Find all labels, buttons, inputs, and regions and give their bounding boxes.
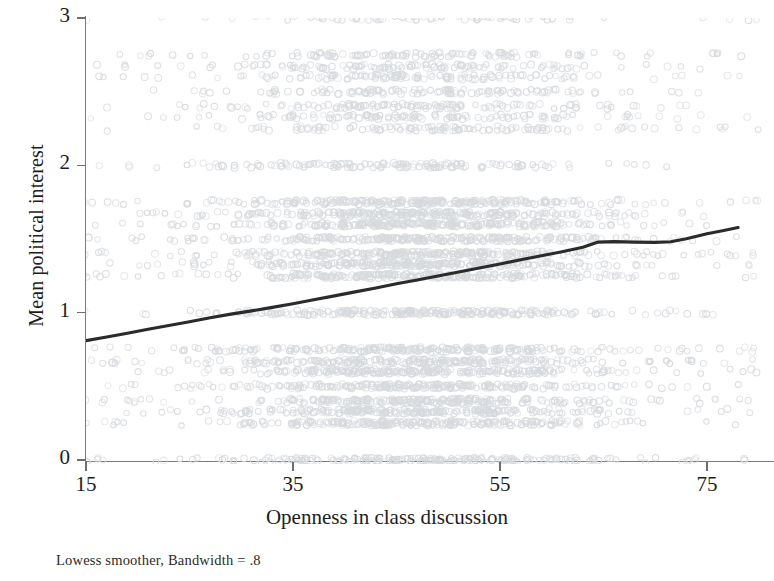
scatter-point — [605, 411, 611, 417]
scatter-point — [137, 263, 142, 268]
scatter-point — [203, 406, 210, 413]
scatter-point — [253, 18, 259, 19]
scatter-point — [751, 273, 757, 279]
scatter-point — [697, 66, 703, 72]
scatter-point — [211, 103, 217, 109]
scatter-point — [740, 368, 746, 374]
scatter-point — [202, 52, 208, 58]
scatter-point — [744, 114, 751, 121]
scatter-point — [104, 128, 110, 134]
scatter-point — [158, 273, 164, 279]
plot-area — [86, 18, 774, 460]
scatter-point — [225, 198, 232, 205]
scatter-point — [631, 162, 637, 168]
scatter-point — [154, 165, 160, 171]
scatter-point — [146, 396, 152, 402]
scatter-point — [203, 271, 210, 278]
scatter-point — [677, 102, 683, 108]
scatter-point — [476, 458, 483, 464]
scatter-point — [610, 252, 617, 259]
scatter-point — [92, 345, 98, 351]
scatter-point — [721, 360, 727, 366]
scatter-point — [477, 65, 482, 70]
scatter-point — [684, 310, 691, 317]
scatter-point — [643, 62, 649, 68]
scatter-point — [665, 346, 671, 352]
scatter-point — [252, 381, 259, 388]
scatter-point — [228, 259, 234, 265]
scatter-point — [742, 344, 748, 350]
scatter-point — [700, 18, 706, 21]
scatter-point — [696, 400, 703, 407]
scatter-point — [195, 270, 202, 277]
scatter-point — [608, 202, 614, 208]
scatter-point — [169, 52, 175, 58]
scatter-point — [241, 455, 248, 462]
scatter-point — [427, 87, 433, 93]
scatter-point — [753, 369, 760, 376]
scatter-point — [235, 63, 242, 70]
scatter-point — [139, 360, 144, 365]
scatter-point — [258, 89, 264, 95]
scatter-point — [727, 199, 733, 205]
plot-canvas — [86, 18, 774, 464]
y-tick-label-0: 0 — [44, 447, 70, 468]
scatter-point — [392, 18, 399, 19]
scatter-point — [566, 161, 572, 167]
scatter-point — [679, 72, 686, 79]
scatter-point — [194, 124, 199, 129]
scatter-point — [229, 18, 235, 21]
scatter-point — [307, 62, 313, 68]
scatter-point — [591, 49, 597, 55]
scatter-point — [629, 125, 636, 132]
scatter-point — [551, 106, 557, 112]
scatter-point — [601, 18, 607, 21]
scatter-point — [652, 455, 658, 461]
scatter-point — [606, 199, 613, 206]
scatter-point — [713, 238, 720, 245]
scatter-point — [210, 384, 215, 389]
scatter-point — [481, 213, 487, 219]
scatter-point — [528, 75, 534, 81]
scatter-point — [291, 18, 298, 19]
scatter-point — [622, 251, 628, 257]
scatter-point — [117, 52, 123, 58]
x-axis-title: Openness in class discussion — [0, 505, 774, 530]
scatter-point — [257, 112, 263, 118]
scatter-point — [585, 210, 591, 216]
scatter-point — [536, 101, 543, 108]
scatter-point — [208, 223, 214, 229]
scatter-point — [643, 201, 649, 207]
scatter-point — [636, 347, 643, 354]
scatter-point — [289, 211, 296, 218]
scatter-point — [242, 349, 248, 355]
scatter-point — [528, 61, 535, 68]
scatter-point — [531, 457, 537, 463]
scatter-point — [201, 262, 207, 268]
scatter-point — [154, 261, 160, 267]
scatter-point — [398, 127, 403, 132]
scatter-point — [325, 308, 331, 314]
scatter-point — [138, 396, 144, 402]
scatter-point — [492, 54, 499, 61]
scatter-point — [581, 263, 588, 270]
scatter-point — [672, 73, 678, 79]
scatter-point — [214, 209, 220, 215]
y-tick-0 — [77, 459, 86, 460]
scatter-point — [243, 54, 249, 60]
scatter-point — [249, 125, 256, 132]
scatter-point — [161, 114, 167, 120]
scatter-point — [650, 367, 657, 374]
scatter-point — [679, 210, 686, 217]
scatter-point — [651, 125, 658, 132]
scatter-point — [86, 308, 88, 314]
scatter-point — [155, 63, 161, 69]
y-tick-label-3: 3 — [44, 5, 70, 26]
scatter-point — [628, 347, 634, 353]
scatter-point — [566, 221, 572, 227]
scatter-point — [137, 221, 143, 227]
scatter-point — [649, 262, 655, 268]
scatter-point — [96, 163, 102, 169]
scatter-point — [102, 418, 109, 425]
scatter-point — [177, 456, 183, 462]
